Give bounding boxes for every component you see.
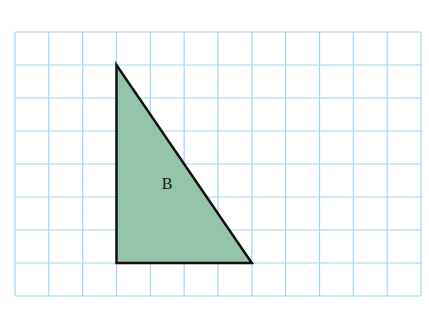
triangle-label: B [162,175,173,193]
grid-diagram [0,0,429,317]
